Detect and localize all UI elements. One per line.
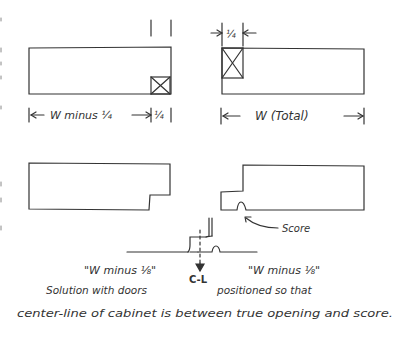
caption-line-1a: Solution with doors [46,284,148,296]
label-quarter-right: ¼ [226,29,236,40]
door-panel-top-left [29,20,171,122]
label-center-line: C-L [189,274,208,285]
caption-line-2: center-line of cabinet is between true o… [17,307,393,319]
label-w-minus-eighth-left: "W minus ⅛" [84,264,156,277]
diagram-canvas: W minus ¼ ¼ ¼ W (Total) Score C-L "W min… [0,0,406,345]
label-w-minus-quarter: W minus ¼ [50,109,112,122]
label-w-total: W (Total) [255,109,309,123]
label-w-minus-eighth-right: "W minus ⅛" [248,264,320,277]
label-quarter-left: ¼ [154,110,164,121]
door-panel-bottom-right [221,165,364,228]
label-score: Score [282,223,310,234]
door-panel-bottom-left [29,163,170,210]
caption-line-1b: positioned so that [216,284,312,296]
